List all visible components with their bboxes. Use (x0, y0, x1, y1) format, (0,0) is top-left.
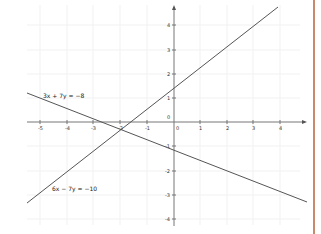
line-6x-minus-7y-eq-neg10 (27, 7, 278, 203)
x-tick-label: 2 (226, 125, 229, 131)
right-border-line (313, 0, 315, 234)
x-tick-label: 4 (279, 125, 282, 131)
x-axis: -5 -4 -3 -2 -1 0 1 2 3 4 (27, 120, 307, 131)
y-tick-label: 4 (167, 22, 170, 28)
grid (27, 5, 300, 225)
x-tick-label: 0 (176, 125, 179, 131)
x-tick-label: 3 (252, 125, 255, 131)
y-tick-label: 3 (167, 47, 170, 53)
equation-label-2: 6x − 7y = −10 (52, 185, 97, 193)
x-tick-label: 1 (199, 125, 202, 131)
x-tick-label: -3 (91, 125, 96, 131)
x-axis-arrow-icon (302, 120, 307, 124)
origin-label: 0 (167, 114, 170, 120)
y-tick-label: 1 (167, 95, 170, 101)
y-axis: 4 3 2 1 0 -1 -2 -3 -4 (165, 5, 176, 226)
x-tick-label: -5 (38, 125, 43, 131)
y-tick-label: 2 (167, 71, 170, 77)
y-tick-label: -4 (165, 216, 170, 222)
x-tick-label: -4 (65, 125, 70, 131)
graph-canvas: -5 -4 -3 -2 -1 0 1 2 3 4 4 3 2 1 0 -1 -2… (0, 0, 321, 234)
y-axis-arrow-icon (172, 5, 176, 10)
x-tick-label: -1 (145, 125, 150, 131)
y-tick-label: -3 (165, 192, 170, 198)
equation-label-1: 3x + 7y = −8 (43, 92, 84, 100)
y-tick-label: -2 (165, 168, 170, 174)
